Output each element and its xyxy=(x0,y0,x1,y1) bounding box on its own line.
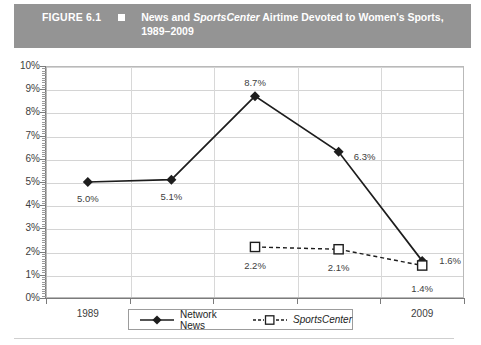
open-square-icon xyxy=(252,314,288,326)
data-point-label: 1.6% xyxy=(420,255,480,266)
data-point-open-square-icon[interactable] xyxy=(250,242,259,251)
figure-title-part1: News and xyxy=(141,11,193,23)
data-point-label: 5.0% xyxy=(58,193,118,204)
data-point-label: 6.3% xyxy=(335,151,395,162)
data-point-filled-diamond-icon[interactable] xyxy=(83,177,93,187)
figure-title-italic: SportsCenter xyxy=(193,11,260,23)
bottom-divider xyxy=(14,338,454,339)
data-point-open-square-icon[interactable] xyxy=(334,245,343,254)
data-point-label: 1.4% xyxy=(392,283,452,294)
chart-legend: Network News SportsCenter xyxy=(128,309,353,330)
legend-entry-network-news: Network News xyxy=(139,309,224,331)
data-point-label: 5.1% xyxy=(141,191,201,202)
legend-label-network-news: Network News xyxy=(180,309,224,331)
data-point-label: 2.2% xyxy=(225,260,285,271)
figure-header-band: FIGURE 6.1 News and SportsCenter Airtime… xyxy=(14,4,471,48)
series-line-network-news xyxy=(88,96,422,261)
filled-diamond-icon xyxy=(139,314,175,326)
figure-title-line2: 1989–2009 xyxy=(141,25,194,37)
data-point-label: 8.7% xyxy=(225,77,285,88)
figure-header-row: FIGURE 6.1 News and SportsCenter Airtime… xyxy=(42,10,471,38)
figure-number-label: FIGURE 6.1 xyxy=(42,10,101,23)
filled-square-icon xyxy=(118,14,125,21)
data-point-label: 2.1% xyxy=(309,262,369,273)
legend-entry-sportscenter: SportsCenter xyxy=(252,314,352,326)
legend-label-sportscenter: SportsCenter xyxy=(293,314,352,325)
figure-title-part2: Airtime Devoted to Women's Sports, xyxy=(260,11,444,23)
chart-container: 0%1%2%3%4%5%6%7%8%9%10% 1989199319992004… xyxy=(0,52,481,337)
figure-title: News and SportsCenter Airtime Devoted to… xyxy=(141,10,443,38)
